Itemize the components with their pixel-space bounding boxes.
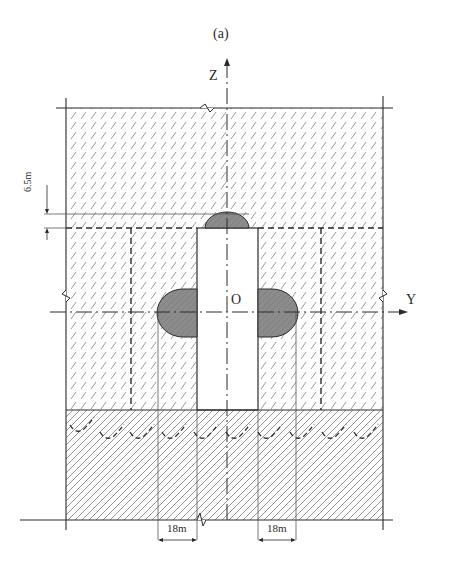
dim-arrow-icon bbox=[258, 538, 263, 542]
dimension-label-18m-right: 18m bbox=[267, 522, 287, 534]
figure-caption: (a) bbox=[213, 26, 229, 42]
dim-arrow-icon bbox=[45, 228, 49, 233]
y-axis-arrow-icon bbox=[399, 309, 408, 315]
origin-label: O bbox=[231, 292, 241, 308]
dimension-label-18m-left: 18m bbox=[167, 522, 187, 534]
dimension-label-6-5m: 6.5m bbox=[22, 172, 33, 192]
diagram-canvas bbox=[0, 0, 449, 572]
z-axis-arrow-icon bbox=[224, 58, 230, 66]
dim-arrow-icon bbox=[45, 209, 49, 214]
dim-arrow-icon bbox=[158, 538, 163, 542]
y-axis-label: Y bbox=[406, 292, 416, 308]
dim-arrow-icon bbox=[291, 538, 296, 542]
lower-soil-layer bbox=[66, 410, 383, 520]
dim-arrow-icon bbox=[192, 538, 197, 542]
z-axis-label: Z bbox=[209, 68, 218, 84]
